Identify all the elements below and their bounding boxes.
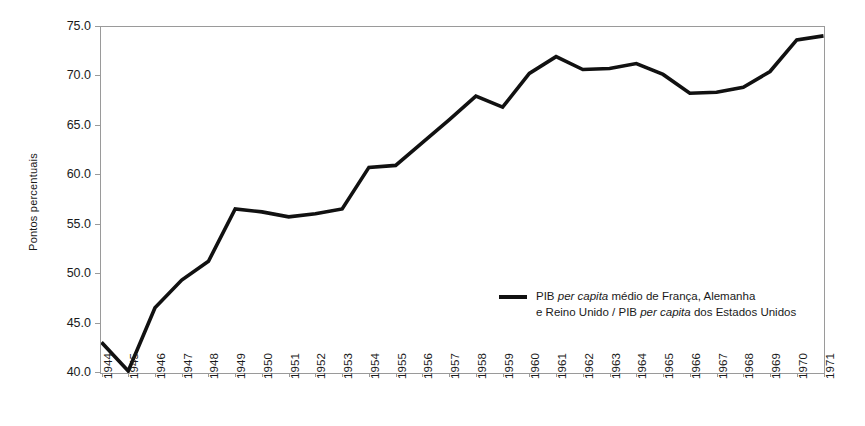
- x-axis-tick-label: 1954: [369, 353, 381, 379]
- plot-area: PIB per capita médio de França, Alemanha…: [100, 26, 825, 374]
- x-axis-tick-label: 1960: [529, 353, 541, 379]
- y-axis-tick-label: 45.0: [67, 316, 91, 330]
- x-axis-tick-label: 1970: [797, 353, 809, 379]
- chart-legend: PIB per capita médio de França, Alemanha…: [499, 289, 796, 320]
- x-axis-tick-label: 1963: [610, 353, 622, 379]
- x-axis-tick-label: 1961: [556, 353, 568, 379]
- x-axis-tick-label: 1952: [315, 353, 327, 379]
- legend-label-line-2: e Reino Unido / PIB per capita dos Estad…: [536, 305, 796, 321]
- y-axis-title: Pontos percentuais: [27, 117, 39, 287]
- legend-label: PIB per capita médio de França, Alemanha…: [536, 289, 796, 320]
- y-axis-tick-label: 40.0: [67, 365, 91, 379]
- x-axis-tick-label: 1949: [235, 353, 247, 379]
- x-axis-tick-label: 1969: [770, 353, 782, 379]
- x-axis-tick-label: 1946: [155, 353, 167, 379]
- x-axis-tick-label: 1957: [449, 353, 461, 379]
- series-polyline: [102, 36, 824, 371]
- legend-line-swatch: [499, 295, 527, 299]
- y-axis-tick-label: 55.0: [67, 217, 91, 231]
- x-axis-tick-label: 1948: [208, 353, 220, 379]
- y-axis-tick-label: 70.0: [67, 68, 91, 82]
- x-axis-tick-label: 1953: [342, 353, 354, 379]
- x-axis-tick-label: 1950: [262, 353, 274, 379]
- data-line-series: [101, 27, 824, 373]
- x-axis-tick-label: 1945: [128, 353, 140, 379]
- x-axis-tick-label: 1966: [690, 353, 702, 379]
- chart-figure: Pontos percentuais 40.045.050.055.060.06…: [0, 0, 865, 426]
- x-axis-tick-label: 1951: [289, 353, 301, 379]
- x-axis-tick-label: 1965: [663, 353, 675, 379]
- x-axis-tick-label: 1956: [422, 353, 434, 379]
- x-axis-tick-label: 1958: [476, 353, 488, 379]
- x-axis-tick-label: 1964: [636, 353, 648, 379]
- x-axis-tick-label: 1959: [503, 353, 515, 379]
- x-axis-tick-label: 1962: [583, 353, 595, 379]
- x-axis-tick-label: 1947: [182, 353, 194, 379]
- x-axis-tick-label: 1944: [102, 353, 114, 379]
- x-axis-tick-label: 1968: [743, 353, 755, 379]
- y-axis-tick-label: 60.0: [67, 167, 91, 181]
- x-axis-tick-label: 1971: [824, 353, 836, 379]
- legend-line2-post: dos Estados Unidos: [691, 306, 796, 318]
- legend-line2-pre: e Reino Unido / PIB: [536, 306, 640, 318]
- legend-line1-italic: per capita: [558, 290, 609, 302]
- x-axis-tick-label: 1955: [396, 353, 408, 379]
- legend-label-line-1: PIB per capita médio de França, Alemanha: [536, 289, 796, 305]
- legend-line2-italic: per capita: [640, 306, 691, 318]
- y-axis-tick-label: 50.0: [67, 266, 91, 280]
- y-axis-tick-label: 65.0: [67, 118, 91, 132]
- legend-line1-post: médio de França, Alemanha: [608, 290, 755, 302]
- legend-line1-pre: PIB: [536, 290, 558, 302]
- x-axis-tick-label: 1967: [717, 353, 729, 379]
- y-axis-tick-label: 75.0: [67, 19, 91, 33]
